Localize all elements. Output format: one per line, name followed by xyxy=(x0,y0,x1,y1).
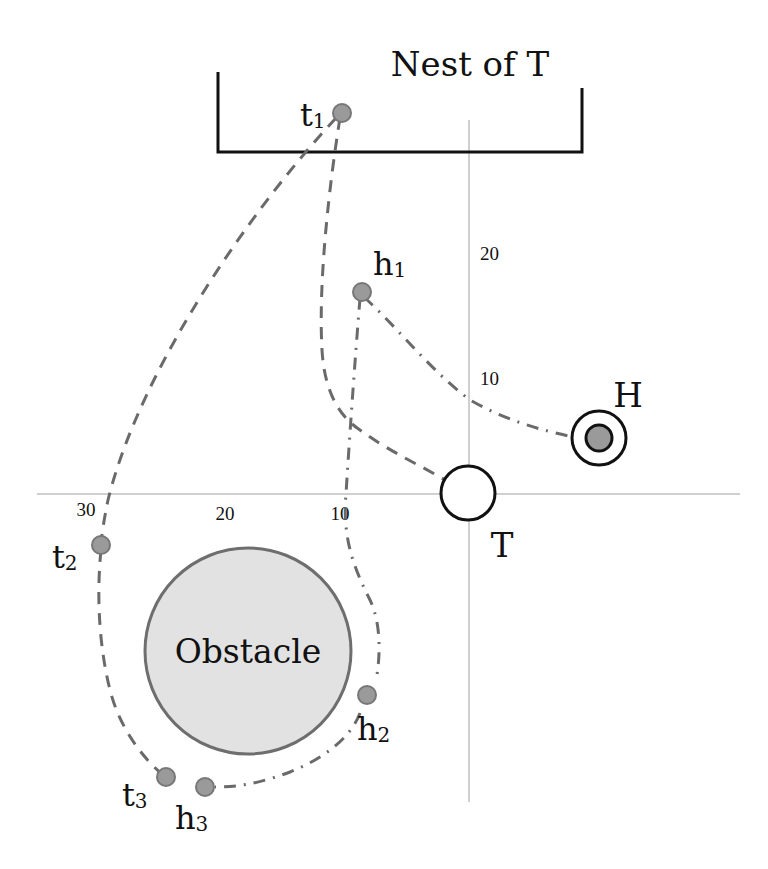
target-path-t1-to-T xyxy=(321,118,445,480)
x-tick-30: 30 xyxy=(77,499,96,520)
nest-bracket xyxy=(218,72,582,152)
pursuit-diagram: Nest of T 20 10 30 20 10 Obstacle T H t1… xyxy=(0,0,768,869)
point-h3: h3 xyxy=(175,778,214,837)
svg-text:t3: t3 xyxy=(122,776,148,814)
target-label: T xyxy=(491,525,514,565)
y-tick-10: 10 xyxy=(480,368,499,389)
svg-text:t2: t2 xyxy=(52,538,78,576)
obstacle-label: Obstacle xyxy=(175,632,322,671)
point-t1: t1 xyxy=(300,96,351,134)
hunter-H-inner xyxy=(586,425,612,451)
hunter-path-h1-to-h2 xyxy=(345,298,379,680)
hunter-label: H xyxy=(613,375,643,415)
target-path-t1-to-t2 xyxy=(101,118,336,545)
point-h2: h2 xyxy=(357,686,390,748)
point-h1: h1 xyxy=(353,245,406,301)
target-T xyxy=(441,466,495,520)
svg-text:h3: h3 xyxy=(175,799,208,837)
svg-text:h2: h2 xyxy=(357,710,390,748)
x-tick-20: 20 xyxy=(216,503,235,524)
nest-label: Nest of T xyxy=(391,44,550,84)
point-t3: t3 xyxy=(122,768,175,814)
svg-text:t1: t1 xyxy=(300,96,326,134)
y-tick-20: 20 xyxy=(480,243,499,264)
svg-text:h1: h1 xyxy=(373,245,406,283)
